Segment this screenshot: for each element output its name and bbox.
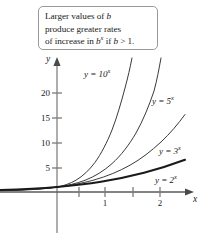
exponential-functions-figure: Larger values of b produce greater rates… xyxy=(0,0,208,233)
x-axis-label: x xyxy=(193,194,197,204)
curve-label-10x: y = 10x xyxy=(84,69,110,79)
curve-label-3x-eq: = 3 xyxy=(163,146,178,156)
y-tick-label-5: 5 xyxy=(34,163,50,173)
curve-label-2x-sup: x xyxy=(174,173,177,180)
curve-label-5x-eq: = 5 xyxy=(156,96,171,106)
curve-label-3x-sup: x xyxy=(178,144,181,151)
y-tick-label-20: 20 xyxy=(34,88,50,98)
curve-10x xyxy=(0,58,132,191)
curve-label-5x: y = 5x xyxy=(152,96,174,106)
y-axis xyxy=(52,57,62,233)
curve-label-2x: y = 2x xyxy=(155,175,177,185)
curve-label-3x: y = 3x xyxy=(159,146,181,156)
curve-label-2x-eq: = 2 xyxy=(159,175,174,185)
y-axis-label: y xyxy=(46,54,50,64)
curve-label-10x-sup: x xyxy=(108,67,111,74)
curve-5x xyxy=(0,58,161,191)
x-tick-label-2: 2 xyxy=(155,198,165,208)
y-tick-label-15: 15 xyxy=(34,113,50,123)
curve-label-5x-sup: x xyxy=(171,94,174,101)
x-tick-label-1: 1 xyxy=(100,198,110,208)
curve-label-10x-eq: = 10 xyxy=(88,69,108,79)
y-tick-label-10: 10 xyxy=(34,138,50,148)
